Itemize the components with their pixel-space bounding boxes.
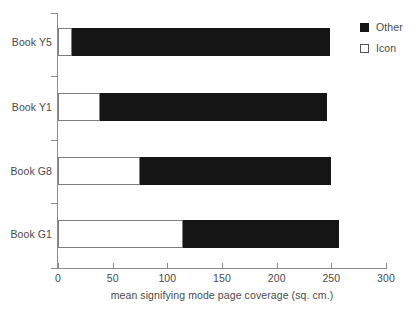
legend-label-icon: Icon <box>376 42 396 54</box>
x-axis-tick <box>113 263 114 269</box>
bar-row <box>58 93 327 121</box>
y-axis-tick <box>51 203 58 204</box>
bar-segment-icon[interactable] <box>58 220 183 248</box>
bar-segment-other[interactable] <box>100 93 327 121</box>
y-axis-tick <box>51 268 58 269</box>
bar-row <box>58 220 339 248</box>
legend-item-icon[interactable]: Icon <box>360 40 403 56</box>
x-axis-tick-label: 50 <box>107 272 119 284</box>
y-axis-tick <box>51 13 58 14</box>
bar-segment-other[interactable] <box>183 220 339 248</box>
bar-segment-other[interactable] <box>140 157 331 185</box>
bar-row <box>58 157 331 185</box>
bar-row <box>58 28 330 56</box>
y-axis-tick <box>51 76 58 77</box>
x-axis-tick-label: 250 <box>322 272 340 284</box>
x-axis-tick <box>58 263 59 269</box>
bar-segment-icon[interactable] <box>58 28 72 56</box>
legend-label-other: Other <box>376 21 403 33</box>
x-axis-tick-label: 200 <box>268 272 286 284</box>
y-axis-category-label: Book G1 <box>0 228 52 240</box>
y-axis-category-label: Book G8 <box>0 165 52 177</box>
y-axis-category-label: Book Y5 <box>0 36 52 48</box>
chart-legend: Other Icon <box>360 19 403 61</box>
stacked-bar-chart: Book Y5Book Y1Book G8Book G1 05010015020… <box>0 0 417 310</box>
outlined-square-icon <box>360 44 369 53</box>
x-axis-tick <box>222 263 223 269</box>
x-axis-tick-label: 300 <box>377 272 395 284</box>
legend-item-other[interactable]: Other <box>360 19 403 35</box>
y-axis-tick <box>51 140 58 141</box>
x-axis-tick-label: 150 <box>213 272 231 284</box>
x-axis-tick <box>167 263 168 269</box>
bar-segment-other[interactable] <box>72 28 330 56</box>
x-axis-tick <box>277 263 278 269</box>
y-axis-category-label: Book Y1 <box>0 101 52 113</box>
x-axis-title: mean signifying mode page coverage (sq. … <box>58 289 386 301</box>
x-axis-tick-label: 0 <box>55 272 61 284</box>
filled-square-icon <box>360 23 369 32</box>
bar-segment-icon[interactable] <box>58 157 140 185</box>
x-axis-tick <box>331 263 332 269</box>
bar-segment-icon[interactable] <box>58 93 100 121</box>
x-axis-tick <box>386 263 387 269</box>
x-axis-tick-label: 100 <box>158 272 176 284</box>
